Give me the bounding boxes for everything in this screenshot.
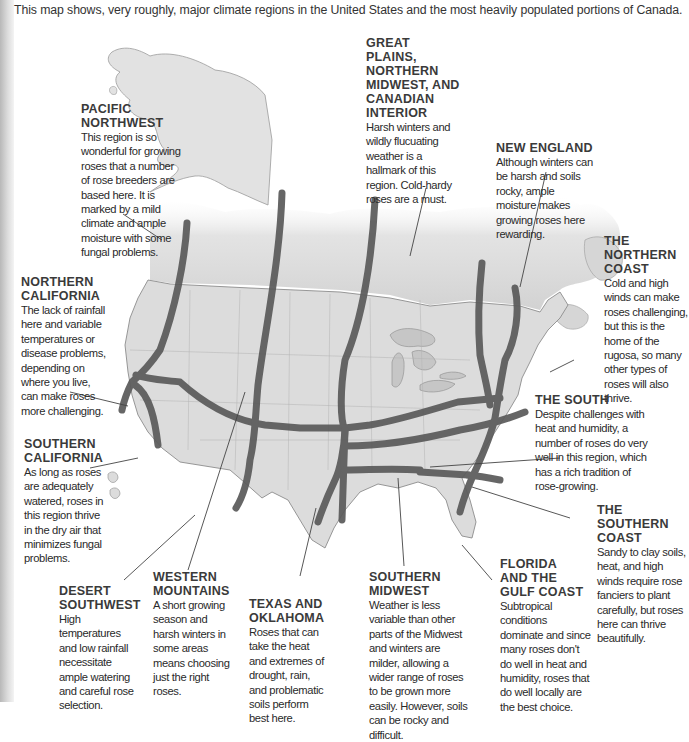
- region-description: As long as roses are adequately watered,…: [24, 465, 104, 566]
- region-description: Cold and high winds can make roses chall…: [604, 276, 688, 406]
- region-western-mountains: WesternMountains A short growing season …: [153, 570, 233, 699]
- region-description: Although winters can be harsh and soils …: [496, 155, 594, 241]
- region-description: Roses that can take the heat and extreme…: [249, 625, 329, 726]
- region-description: Subtropical conditions dominate and sinc…: [500, 599, 592, 714]
- us-landmass: [125, 280, 568, 548]
- region-title: SouthernMidwest: [369, 570, 469, 598]
- region-description: Harsh winters and wildly flucuating weat…: [366, 120, 462, 206]
- region-the-south: The South Despite challenges with heat a…: [535, 393, 655, 493]
- region-southern-coast: The SouthernCoast Sandy to clay soils, h…: [597, 503, 689, 646]
- region-title: NorthernCalifornia: [21, 275, 109, 303]
- region-title: The South: [535, 393, 655, 407]
- region-title: Texas andOklahoma: [249, 597, 329, 625]
- region-title: WesternMountains: [153, 570, 233, 598]
- region-desert-southwest: DesertSouthwest High temperatures and lo…: [59, 584, 139, 713]
- region-northern-coast: TheNorthernCoast Cold and high winds can…: [604, 234, 688, 406]
- region-title: Great Plains,NorthernMidwest, andCanadia…: [366, 36, 462, 120]
- region-southern-california: SouthernCalifornia As long as roses are …: [24, 437, 104, 566]
- region-title: DesertSouthwest: [59, 584, 139, 612]
- region-title: New England: [496, 141, 594, 155]
- region-description: A short growing season and harsh winters…: [153, 598, 233, 699]
- region-texas-oklahoma: Texas andOklahoma Roses that can take th…: [249, 597, 329, 726]
- region-title: SouthernCalifornia: [24, 437, 104, 465]
- region-description: Sandy to clay soils, heat, and high wind…: [597, 545, 689, 646]
- region-description: High temperatures and low rainfall neces…: [59, 612, 139, 713]
- region-description: Weather is less variable than other part…: [369, 598, 469, 742]
- region-new-england: New England Although winters can be hars…: [496, 141, 594, 241]
- region-southern-midwest: SouthernMidwest Weather is less variable…: [369, 570, 469, 742]
- region-title: PacificNorthwest: [81, 102, 181, 130]
- region-florida-gulf-coast: Floridaand theGulf Coast Subtropical con…: [500, 557, 592, 714]
- region-great-plains: Great Plains,NorthernMidwest, andCanadia…: [366, 36, 462, 206]
- region-title: The SouthernCoast: [597, 503, 689, 545]
- region-pacific-northwest: PacificNorthwest This region is so wonde…: [81, 102, 181, 260]
- region-title: Floridaand theGulf Coast: [500, 557, 592, 599]
- region-title: TheNorthernCoast: [604, 234, 688, 276]
- region-description: Despite challenges with heat and humidit…: [535, 407, 655, 493]
- region-description: This region is so wonderful for growing …: [81, 130, 181, 260]
- region-description: The lack of rainfall here and variable t…: [21, 303, 109, 418]
- region-northern-california: NorthernCalifornia The lack of rainfall …: [21, 275, 109, 418]
